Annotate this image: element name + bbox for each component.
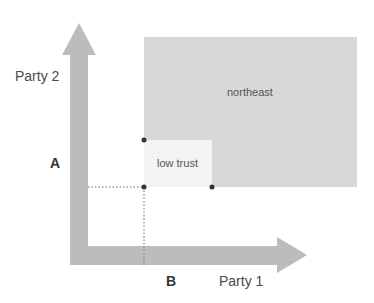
diagram-canvas [0,0,374,303]
x-axis-label: Party 1 [219,273,263,289]
y-axis-arrow-icon [62,23,96,246]
northeast-label: northeast [227,86,273,98]
corner-dot-right [210,185,215,190]
x-axis-marker-b: B [166,273,176,289]
low-trust-label: low trust [157,157,198,169]
y-axis-label: Party 2 [15,68,59,84]
x-axis-arrow-icon [70,237,307,273]
y-axis-marker-a: A [50,155,60,171]
corner-dot-origin [142,185,147,190]
corner-dot-top [142,138,147,143]
